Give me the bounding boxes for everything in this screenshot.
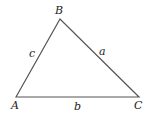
vertex-label-a: A — [10, 99, 19, 112]
side-label-a: a — [99, 45, 106, 58]
side-label-b: b — [74, 100, 81, 113]
vertex-label-c: C — [134, 99, 143, 112]
triangle-diagram: A B C a b c — [0, 0, 148, 115]
vertex-label-b: B — [54, 4, 63, 17]
side-label-c: c — [29, 47, 35, 60]
